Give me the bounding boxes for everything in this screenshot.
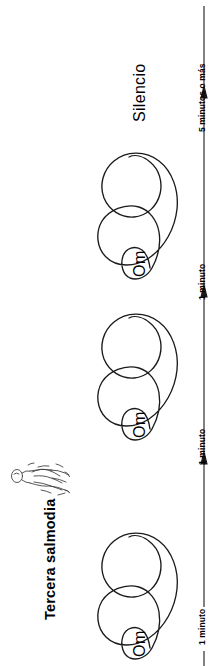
- silencio-label: Silencio: [131, 64, 149, 122]
- figure-root: Tercera salmodia Om Om Om Silencio 1 min…: [0, 0, 221, 666]
- axis-label-4-cinco-minutos: 5 minutos o más: [197, 63, 207, 132]
- axis-label-3-minuto: 1 minuto: [197, 264, 207, 300]
- axis-label-2-minuto: 1 minuto: [197, 429, 207, 465]
- person-detail-3: [28, 463, 34, 465]
- reclining-person-icon: [8, 445, 70, 517]
- person-head: [12, 470, 23, 483]
- om-label-2: Om: [131, 411, 149, 438]
- chart-title: Tercera salmodia: [42, 499, 58, 620]
- person-detail-1: [38, 466, 49, 467]
- om-label-1: Om: [131, 630, 149, 657]
- person-neck-2: [22, 480, 30, 483]
- om-label-3: Om: [131, 250, 149, 277]
- person-detail-2: [41, 490, 51, 493]
- person-face: [14, 473, 19, 474]
- person-detail-4: [56, 464, 63, 467]
- axis-label-1-minuto: 1 minuto: [197, 609, 207, 645]
- person-neck: [22, 471, 30, 473]
- person-detail-5: [58, 493, 65, 495]
